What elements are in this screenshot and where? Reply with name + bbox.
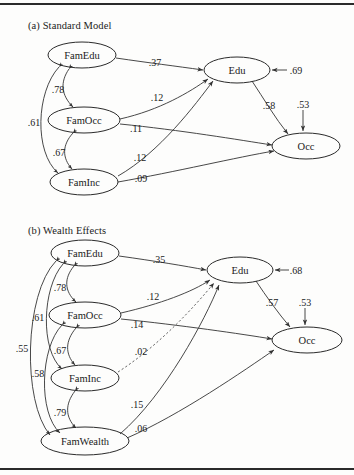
node-label: FamInc xyxy=(68,177,100,188)
node-b-famwealth[interactable]: FamWealth xyxy=(41,427,129,455)
corr-b-famedu-famwealth xyxy=(30,261,56,435)
coef-b-06: .06 xyxy=(135,423,148,434)
corr-famedu-famocc xyxy=(63,69,73,107)
coef-a-53: .53 xyxy=(297,99,310,110)
node-b-occ[interactable]: Occ xyxy=(272,327,342,353)
node-label: Edu xyxy=(229,65,247,76)
node-label: FamInc xyxy=(69,373,101,384)
coef-a-61: .61 xyxy=(28,117,41,128)
figure-page: (a) Standard Model (b) Wealth Effects .7… xyxy=(0,0,354,475)
coef-a-78: .78 xyxy=(52,84,65,95)
panel-b-group: .78 .67 .79 .61 .58 .55 .35 .12 .14 .02 xyxy=(16,240,342,455)
coef-b-61: .61 xyxy=(32,312,45,323)
panel-b-paths: .35 .12 .14 .02 .15 .06 .57 xyxy=(118,254,290,439)
coef-a-69: .69 xyxy=(290,65,303,76)
coef-a-58: .58 xyxy=(263,100,276,111)
node-label: FamWealth xyxy=(61,436,110,447)
coef-b-53: .53 xyxy=(299,297,312,308)
coef-b-57: .57 xyxy=(266,297,279,308)
coef-a-12-famocc: .12 xyxy=(151,92,164,103)
node-b-famedu[interactable]: FamEdu xyxy=(51,240,119,266)
node-label: FamEdu xyxy=(64,50,100,61)
node-label: Occ xyxy=(299,335,316,346)
node-label: Occ xyxy=(298,141,315,152)
node-label: FamOcc xyxy=(66,115,102,126)
node-label: Edu xyxy=(232,265,250,276)
coef-b-78: .78 xyxy=(54,282,67,293)
corr-b-faminc-famwealth xyxy=(68,391,76,428)
node-a-occ[interactable]: Occ xyxy=(272,133,340,159)
coef-a-37: .37 xyxy=(149,57,162,68)
panel-b-correlations: .78 .67 .79 .61 .58 .55 xyxy=(16,261,76,435)
node-b-famocc[interactable]: FamOcc xyxy=(49,302,121,328)
corr-famocc-faminc xyxy=(65,133,73,169)
node-label: FamEdu xyxy=(67,248,103,259)
node-a-famocc[interactable]: FamOcc xyxy=(48,107,120,133)
coef-b-68: .68 xyxy=(290,265,303,276)
path-b-famocc-edu xyxy=(121,280,210,313)
path-a-famocc-occ xyxy=(120,124,272,145)
node-b-edu[interactable]: Edu xyxy=(207,257,273,283)
panel-a-paths: .37 .12 .11 .12 .09 .58 xyxy=(116,57,288,184)
path-b-famwealth-edu xyxy=(120,285,219,434)
path-b-famwealth-occ xyxy=(127,350,274,438)
node-a-famedu[interactable]: FamEdu xyxy=(48,42,116,68)
node-b-faminc[interactable]: FamInc xyxy=(51,365,119,391)
path-a-famocc-edu xyxy=(120,79,208,119)
node-label: FamOcc xyxy=(67,310,103,321)
coef-b-14: .14 xyxy=(131,319,144,330)
coef-b-67: .67 xyxy=(54,345,67,356)
node-a-edu[interactable]: Edu xyxy=(204,57,270,83)
coef-a-09: .09 xyxy=(135,173,148,184)
panel-a-group: .78 .67 .61 .37 .12 .11 .12 .09 .58 xyxy=(28,42,340,195)
coef-b-12: .12 xyxy=(147,291,160,302)
coef-a-12-faminc: .12 xyxy=(134,152,147,163)
coef-b-15: .15 xyxy=(131,399,144,410)
coef-b-55: .55 xyxy=(16,343,29,354)
path-b-famocc-occ xyxy=(121,319,272,339)
coef-b-02: .02 xyxy=(135,346,148,357)
corr-b-famocc-faminc xyxy=(68,328,76,365)
corr-b-famedu-famocc xyxy=(67,266,76,302)
coef-b-35: .35 xyxy=(153,254,166,265)
panel-a-disturbances: .69 .53 xyxy=(272,65,309,132)
path-diagram-svg: .78 .67 .61 .37 .12 .11 .12 .09 .58 xyxy=(0,0,354,475)
coef-a-11: .11 xyxy=(130,123,142,134)
coef-a-67: .67 xyxy=(53,147,66,158)
node-a-faminc[interactable]: FamInc xyxy=(50,169,118,195)
coef-b-79: .79 xyxy=(54,407,67,418)
coef-b-58: .58 xyxy=(32,368,45,379)
